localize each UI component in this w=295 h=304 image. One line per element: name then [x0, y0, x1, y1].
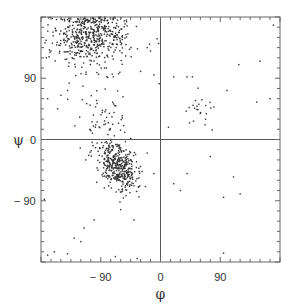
x-tick-label-neg90: − 90: [90, 271, 112, 283]
x-tick-label-0: 0: [158, 271, 164, 283]
y-tick-label-neg90: − 90: [14, 195, 36, 207]
data-points: [41, 16, 274, 259]
x-axis-label-phi: φ: [156, 286, 166, 302]
x-tick-label-90: 90: [214, 271, 226, 283]
y-tick-label-90: 90: [24, 72, 36, 84]
y-tick-label-0: 0: [30, 134, 36, 146]
ramachandran-plot: [0, 0, 295, 304]
y-axis-label-psi: ψ: [13, 132, 24, 148]
